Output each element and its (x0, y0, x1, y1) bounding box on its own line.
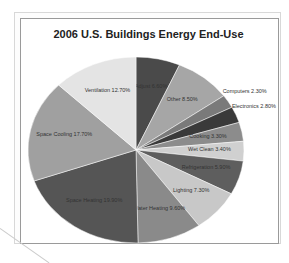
slice-label: Adjust 6.60% (135, 83, 168, 89)
slice-label: Lighting 7.30% (173, 187, 209, 193)
slice-label: Space Heating 19.90% (66, 197, 122, 203)
slice-label: Space Cooling 17.70% (36, 131, 92, 137)
slice-label: Wet Clean 3.40% (188, 146, 231, 152)
slice-label: Ventilation 12.70% (85, 87, 131, 93)
slice-label: Computers 2.30% (223, 88, 267, 94)
slice-label: Water Heating 9.60% (133, 205, 185, 211)
slice-label: Electronics 2.80% (232, 103, 276, 109)
slice-label: Cooking 3.30% (189, 133, 226, 139)
slice-label: Refrigeration 5.90% (182, 164, 231, 170)
slice-label: Other 8.50% (167, 96, 198, 102)
